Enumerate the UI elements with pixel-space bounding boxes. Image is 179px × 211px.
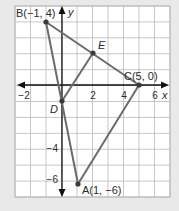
point-e-label: E (98, 39, 106, 51)
point-b-label: B(−1, 4) (16, 7, 55, 19)
x-tick-label: 4 (121, 90, 127, 101)
point-d-label: D (50, 103, 58, 115)
y-tick-label: −4 (47, 143, 59, 154)
x-axis-label: x (161, 89, 168, 101)
point-b (43, 19, 48, 24)
point-c-label: C(5, 0) (124, 70, 158, 82)
point-c (136, 82, 141, 87)
point-a (75, 181, 80, 186)
coordinate-plane-figure: y x −2 2 4 6 −4 −6 B(−1, 4) E C(5, 0) D … (0, 0, 179, 211)
point-e (90, 50, 95, 55)
y-tick-label: −6 (47, 174, 59, 185)
x-tick-label: 6 (152, 90, 158, 101)
x-tick-label: −2 (18, 90, 30, 101)
x-tick-label: 2 (90, 90, 96, 101)
point-d (59, 98, 64, 103)
point-a-label: A(1, −6) (82, 184, 121, 196)
